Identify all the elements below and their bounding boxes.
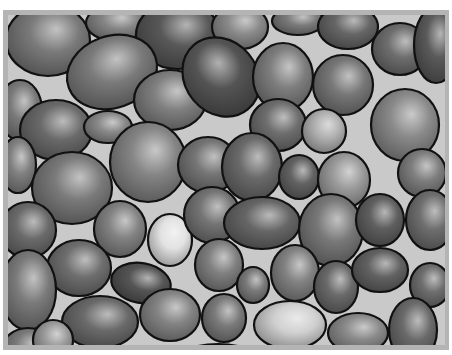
pebble bbox=[279, 155, 319, 199]
pebbles-graphic bbox=[8, 15, 445, 345]
pebble bbox=[140, 289, 200, 341]
pebble bbox=[272, 15, 324, 35]
pebble bbox=[202, 294, 246, 342]
pebble bbox=[328, 313, 388, 345]
pebble bbox=[313, 55, 373, 115]
pebble bbox=[406, 190, 445, 250]
pebble bbox=[254, 301, 326, 345]
pebble bbox=[237, 267, 269, 303]
pebble bbox=[222, 133, 282, 201]
pebble bbox=[224, 197, 300, 249]
pebble-illustration bbox=[8, 15, 445, 345]
pebble bbox=[271, 245, 319, 301]
pebble bbox=[8, 250, 56, 330]
pebble bbox=[195, 239, 243, 291]
pebble bbox=[178, 344, 258, 345]
pebble bbox=[302, 109, 346, 153]
pebble bbox=[318, 15, 378, 49]
stone-group bbox=[8, 15, 445, 345]
pebble bbox=[110, 122, 186, 202]
pebble bbox=[414, 15, 445, 83]
pebble bbox=[352, 248, 408, 292]
pebble bbox=[398, 149, 445, 197]
pebble bbox=[356, 194, 404, 246]
